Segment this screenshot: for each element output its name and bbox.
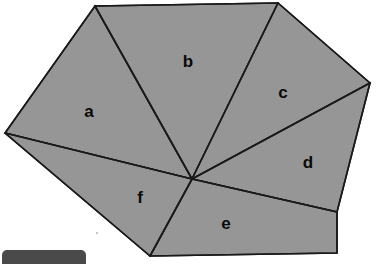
taskbar-chip[interactable] (2, 250, 86, 264)
region-label-b: b (183, 52, 193, 71)
region-label-f: f (137, 188, 143, 207)
region-label-e: e (221, 214, 230, 233)
region-label-a: a (84, 102, 94, 121)
stray-pixel-artifact (96, 232, 98, 234)
region-polygons (5, 3, 370, 256)
region-label-d: d (303, 153, 313, 172)
region-label-c: c (278, 83, 287, 102)
